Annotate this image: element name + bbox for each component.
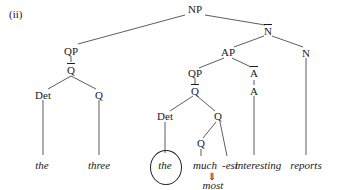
leaf-interesting: interesting bbox=[235, 160, 282, 171]
node-n-right: N bbox=[302, 48, 310, 59]
leaf-the: the bbox=[35, 160, 48, 171]
node-np: NP bbox=[188, 4, 202, 15]
example-label: (ii) bbox=[9, 9, 22, 20]
node-det-left: Det bbox=[35, 90, 51, 101]
node-ap: AP bbox=[221, 47, 235, 58]
node-a: A bbox=[250, 86, 258, 97]
node-q-mid: Q bbox=[214, 111, 222, 122]
leaf-three: three bbox=[88, 160, 110, 171]
leaf-the-circled: the bbox=[158, 160, 171, 171]
node-qp-mid: QP bbox=[188, 68, 202, 79]
node-qbar-mid: Q bbox=[191, 86, 199, 97]
leaf-reports: reports bbox=[290, 160, 321, 171]
node-qbar-left: Q bbox=[67, 65, 75, 76]
node-qp-left: QP bbox=[64, 46, 78, 57]
node-q-left: Q bbox=[95, 90, 103, 101]
leaf-much: much bbox=[193, 160, 217, 171]
leaf-most: most bbox=[203, 180, 224, 190]
node-abar: A bbox=[250, 68, 258, 79]
node-nbar: N bbox=[264, 26, 272, 37]
node-q-inner: Q bbox=[197, 138, 205, 149]
node-det-mid: Det bbox=[157, 111, 173, 122]
